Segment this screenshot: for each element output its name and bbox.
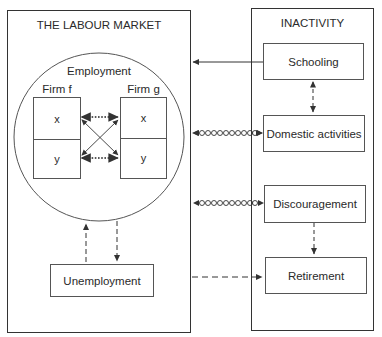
domestic-activities-box: Domestic activities (263, 115, 365, 152)
inactivity-title: INACTIVITY (251, 17, 374, 29)
firm-f-box: x y (33, 97, 81, 179)
schooling-box: Schooling (263, 43, 364, 80)
discouragement-box: Discouragement (264, 185, 366, 223)
firm-g-cell-x: x (121, 98, 166, 139)
firm-g-cell-y: y (121, 138, 166, 178)
firm-g-box: x y (120, 97, 167, 179)
arrow-discouragement-labour-market (193, 200, 264, 206)
unemployment-box: Unemployment (50, 264, 154, 297)
arrow-domestic-labour-market (193, 130, 263, 136)
labour-market-title: THE LABOUR MARKET (7, 19, 191, 31)
firm-f-label: Firm f (33, 83, 81, 95)
firm-f-cell-x: x (34, 98, 80, 140)
firm-f-cell-y: y (34, 139, 80, 178)
firm-g-label: Firm g (120, 83, 167, 95)
employment-label: Employment (14, 65, 184, 77)
retirement-box: Retirement (265, 257, 367, 294)
